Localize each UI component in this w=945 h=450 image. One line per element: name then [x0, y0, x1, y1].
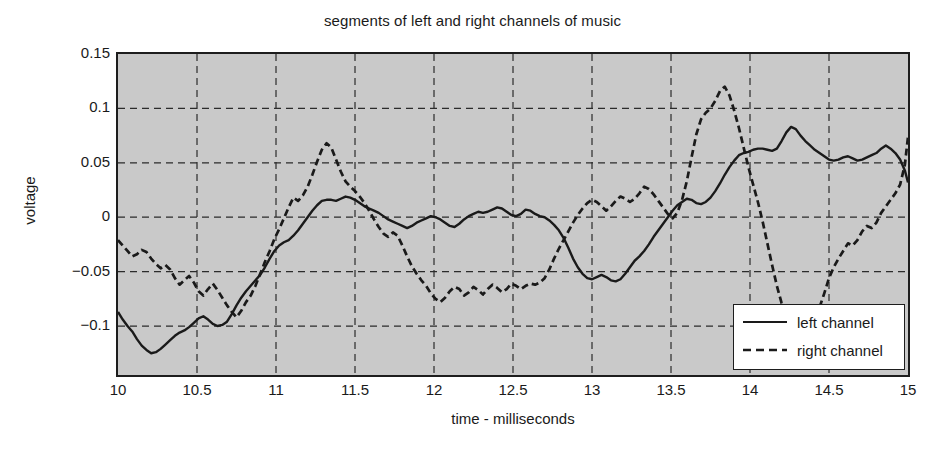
x-tick-label: 13.5 [656, 381, 685, 398]
x-tick-label: 14.5 [814, 381, 843, 398]
legend-item-right-channel: right channel [742, 337, 883, 363]
x-tick-label: 15 [900, 381, 917, 398]
legend-item-left-channel: left channel [742, 309, 874, 335]
legend-line-solid-icon [742, 316, 788, 328]
x-tick-label: 11.5 [341, 381, 369, 398]
x-tick-label: 10 [110, 381, 127, 398]
x-tick-label: 14 [742, 381, 759, 398]
x-tick-label: 12 [426, 381, 443, 398]
legend-label: left channel [797, 314, 874, 331]
chart-figure: segments of left and right channels of m… [0, 0, 945, 450]
x-axis-label: time - milliseconds [116, 410, 910, 427]
legend: left channel right channel [733, 304, 905, 370]
legend-label: right channel [797, 342, 883, 359]
x-tick-label: 10.5 [182, 381, 211, 398]
x-tick-label: 11 [268, 381, 284, 398]
x-axis-tick-labels: 1010.51111.51212.51313.51414.515 [0, 0, 945, 450]
x-tick-label: 13 [584, 381, 601, 398]
x-tick-label: 12.5 [498, 381, 527, 398]
legend-line-dashed-icon [742, 344, 788, 356]
